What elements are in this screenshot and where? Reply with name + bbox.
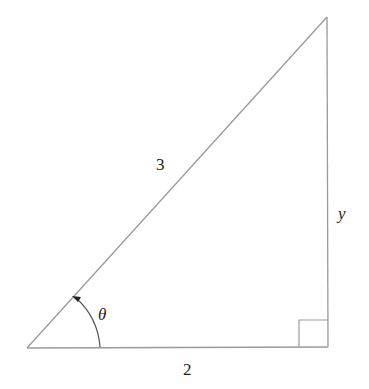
base-label: 2 (183, 360, 192, 379)
triangle-diagram: 3 2 y θ (0, 0, 369, 389)
opposite-side (327, 17, 328, 347)
hypotenuse-label: 3 (156, 155, 165, 174)
opposite-label: y (336, 204, 346, 223)
angle-arc (76, 298, 100, 347)
hypotenuse-side (27, 17, 327, 348)
base-side (27, 347, 328, 348)
right-angle-marker (299, 320, 328, 347)
angle-label: θ (98, 305, 106, 324)
